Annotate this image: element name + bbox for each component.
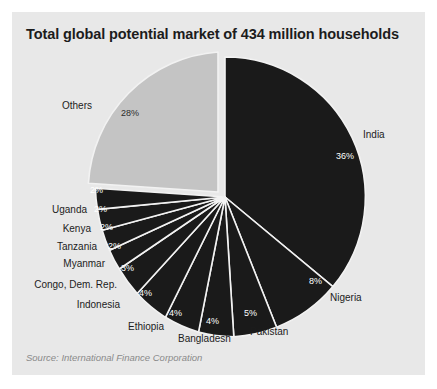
pct-label-indonesia: 4% [139,289,152,298]
pct-label-pakistan: 5% [244,309,257,318]
category-label-myanmar: Myanmar [22,259,105,269]
category-label-congo: Congo, Dem. Rep. [12,280,117,290]
category-label-bangladesh: Bangladesh [178,334,231,344]
pct-label-others: 28% [121,109,139,118]
category-label-nigeria: Nigeria [330,293,362,303]
category-label-uganda: Uganda [22,205,87,215]
source-attribution: Source: International Finance Corporatio… [26,352,202,363]
pct-label-tanzania: 2% [100,223,113,232]
pct-label-ethiopia: 4% [169,309,182,318]
pct-label-myanmar: 2% [108,242,121,251]
pct-label-kenya: 2% [94,205,107,214]
pie-slice-others[interactable] [88,52,218,192]
pct-label-bangladesh: 4% [206,317,219,326]
pct-label-congo: 3% [121,264,134,273]
pie-slices [88,52,365,337]
category-label-kenya: Kenya [22,224,91,234]
pct-label-uganda: 2% [90,186,103,195]
category-label-pakistan: Pakistan [250,327,288,337]
pie-chart-area: 36% 8% 5% 4% 4% 4% 3% 2% 2% 2% 2% 28% In… [12,12,425,375]
pct-label-nigeria: 8% [309,277,322,286]
category-label-others: Others [62,101,92,111]
category-label-india: India [363,130,385,140]
category-label-ethiopia: Ethiopia [128,322,164,332]
category-label-tanzania: Tanzania [22,242,97,252]
chart-figure: Total global potential market of 434 mil… [0,0,437,389]
pct-label-india: 36% [336,152,354,161]
category-label-indonesia: Indonesia [26,300,120,310]
